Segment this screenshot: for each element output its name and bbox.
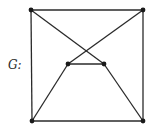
graph-label: G: bbox=[8, 58, 22, 72]
graph-vertices bbox=[29, 8, 146, 124]
graph-canvas bbox=[0, 0, 153, 132]
edge-inner-right-bottom-right bbox=[104, 64, 143, 121]
vertex-top-left bbox=[29, 8, 34, 13]
vertex-inner-left bbox=[66, 62, 71, 67]
edge-inner-left-bottom-left bbox=[32, 64, 68, 121]
edge-top-right-inner-left bbox=[68, 10, 143, 64]
edge-top-left-inner-right bbox=[31, 10, 104, 64]
vertex-inner-right bbox=[102, 62, 107, 67]
vertex-bottom-right bbox=[141, 119, 146, 124]
edge-top-left-bottom-left bbox=[31, 10, 32, 121]
vertex-bottom-left bbox=[30, 119, 35, 124]
graph-edges bbox=[31, 10, 143, 121]
vertex-top-right bbox=[141, 8, 146, 13]
